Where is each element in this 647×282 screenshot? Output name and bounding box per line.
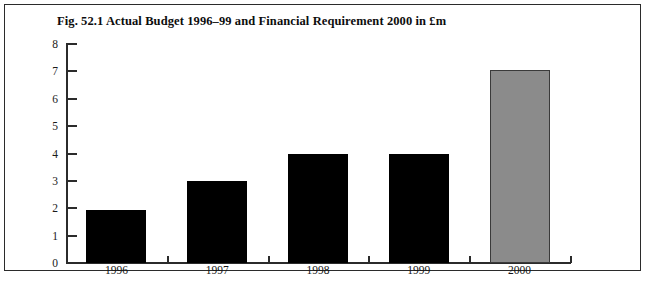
y-axis-tick-label: 8 bbox=[18, 38, 58, 50]
y-axis-tick-label: 6 bbox=[18, 93, 58, 105]
x-axis-tick bbox=[167, 256, 169, 263]
bar-1997 bbox=[187, 181, 247, 263]
x-axis-tick-label-2000: 2000 bbox=[480, 264, 560, 276]
bar-1998 bbox=[288, 154, 348, 264]
x-axis-tick-label-1996: 1996 bbox=[76, 264, 156, 276]
x-axis-tick bbox=[268, 256, 270, 263]
x-axis-tick-label-1997: 1997 bbox=[177, 264, 257, 276]
y-axis-tick-label: 3 bbox=[18, 175, 58, 187]
y-axis-tick-label: 4 bbox=[18, 148, 58, 160]
y-axis-tick-label: 5 bbox=[18, 120, 58, 132]
y-axis-tick-label: 0 bbox=[18, 257, 58, 269]
y-axis-labels: 012345678 bbox=[0, 0, 58, 282]
bar-1996 bbox=[86, 210, 146, 263]
bar-1999 bbox=[389, 154, 449, 264]
chart-title: Fig. 52.1 Actual Budget 1996–99 and Fina… bbox=[57, 14, 446, 29]
y-axis-tick-label: 1 bbox=[18, 230, 58, 242]
plot-area bbox=[66, 44, 570, 263]
bar-2000 bbox=[490, 70, 550, 263]
y-axis-tick-label: 2 bbox=[18, 202, 58, 214]
x-axis-tick bbox=[368, 256, 370, 263]
x-axis-tick bbox=[570, 256, 572, 263]
x-axis-tick bbox=[66, 256, 68, 263]
y-axis-tick-label: 7 bbox=[18, 65, 58, 77]
x-axis-tick bbox=[469, 256, 471, 263]
x-axis-tick-label-1998: 1998 bbox=[278, 264, 358, 276]
figure-container: Fig. 52.1 Actual Budget 1996–99 and Fina… bbox=[0, 0, 647, 282]
x-axis-tick-label-1999: 1999 bbox=[379, 264, 459, 276]
